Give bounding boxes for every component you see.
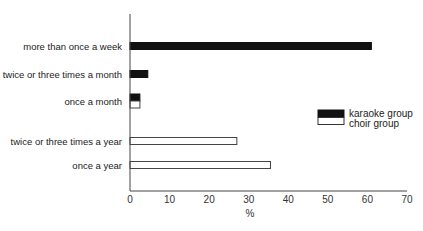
x-tick-label: 70	[401, 194, 413, 205]
karaoke-bar	[130, 71, 148, 78]
x-tick-label: 10	[164, 194, 176, 205]
choir-bar	[130, 138, 237, 145]
x-tick-label: 30	[243, 194, 255, 205]
x-tick-label: 20	[204, 194, 216, 205]
legend: karaoke group choir group	[318, 108, 413, 129]
category-label: more than once a week	[23, 41, 122, 52]
choir-bar	[130, 162, 270, 169]
legend-label-choir: choir group	[349, 118, 399, 129]
x-axis-ticks: 010203040506070	[127, 194, 413, 205]
legend-swatch-karaoke	[318, 110, 344, 117]
karaoke-bar	[130, 43, 371, 50]
x-tick-label: 60	[362, 194, 374, 205]
x-tick-label: 0	[127, 194, 133, 205]
category-labels: more than once a weektwice or three time…	[3, 41, 123, 171]
x-tick-label: 40	[283, 194, 295, 205]
category-label: once a month	[64, 96, 122, 107]
karaoke-bar	[130, 94, 140, 101]
category-label: twice or three times a year	[11, 136, 122, 147]
x-tick-label: 50	[322, 194, 334, 205]
category-label: twice or three times a month	[3, 69, 122, 80]
category-label: once a year	[72, 160, 122, 171]
x-axis-title: %	[246, 208, 255, 219]
bar-chart: more than once a weektwice or three time…	[0, 0, 423, 231]
choir-bar	[130, 101, 140, 108]
bars	[130, 43, 371, 169]
legend-swatch-choir	[318, 118, 344, 125]
